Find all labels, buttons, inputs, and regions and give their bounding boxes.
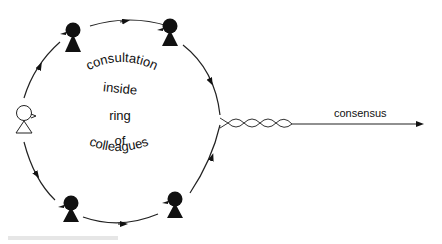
colleague-figure-icon <box>58 196 79 223</box>
consultation-ring-diagram: consensus consultation inside ring of co… <box>0 0 442 244</box>
ring-label-consultation: consultation <box>84 50 161 73</box>
arc-top-right-to-merge <box>183 45 220 115</box>
figure-caption-cropped <box>8 236 118 240</box>
arc-proposer-to-bottom-left <box>24 142 55 200</box>
braid <box>220 118 292 128</box>
colleague-figure-icon <box>162 192 183 219</box>
ring-label-inside: inside <box>102 79 137 97</box>
arc-proposer-to-top-left <box>24 42 60 98</box>
proposer-figure-icon <box>16 106 36 134</box>
arc-bottom-right-to-merge <box>190 125 220 193</box>
ring-label-ring: ring <box>109 108 131 123</box>
arc-bottom-left-to-bottom-right <box>83 214 158 223</box>
arc-top-left-to-top-right <box>90 20 168 26</box>
colleague-figure-icon <box>60 23 81 53</box>
colleague-figure-icon <box>157 19 178 47</box>
consensus-label: consensus <box>334 107 387 119</box>
